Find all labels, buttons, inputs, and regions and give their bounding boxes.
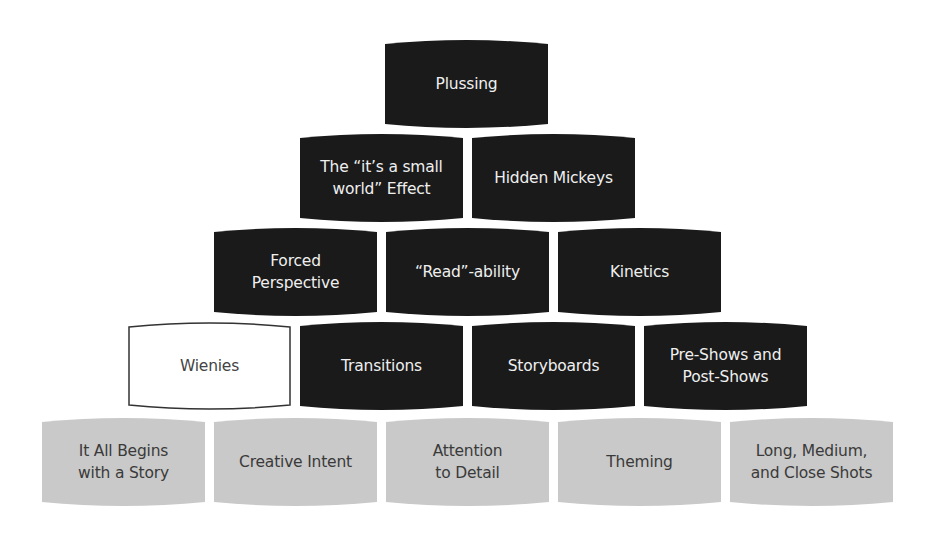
block-transitions: Transitions xyxy=(300,322,463,410)
block-wienies: Wienies xyxy=(128,322,291,410)
block-label: Wienies xyxy=(172,355,247,377)
block-label: “Read”-ability xyxy=(407,261,528,283)
block-label: Kinetics xyxy=(602,261,677,283)
block-label: The “it’s a small world” Effect xyxy=(312,156,450,200)
block-label: Long, Medium, and Close Shots xyxy=(743,440,881,484)
block-attention-to-detail: Attention to Detail xyxy=(386,418,549,506)
block-theming: Theming xyxy=(558,418,721,506)
block-pre-post-shows: Pre-Shows and Post-Shows xyxy=(644,322,807,410)
block-label: Creative Intent xyxy=(231,451,360,473)
block-creative-intent: Creative Intent xyxy=(214,418,377,506)
block-label: Storyboards xyxy=(500,355,608,377)
block-label: Pre-Shows and Post-Shows xyxy=(662,344,790,388)
block-plussing: Plussing xyxy=(385,40,548,128)
block-hidden-mickeys: Hidden Mickeys xyxy=(472,134,635,222)
pyramid-diagram: Plussing The “it’s a small world” Effect… xyxy=(0,0,941,535)
block-storyboards: Storyboards xyxy=(472,322,635,410)
block-label: Plussing xyxy=(428,73,506,95)
block-label: It All Begins with a Story xyxy=(70,440,177,484)
block-begins-with-story: It All Begins with a Story xyxy=(42,418,205,506)
block-label: Hidden Mickeys xyxy=(486,167,621,189)
block-kinetics: Kinetics xyxy=(558,228,721,316)
block-label: Theming xyxy=(598,451,681,473)
block-small-world-effect: The “it’s a small world” Effect xyxy=(300,134,463,222)
block-read-ability: “Read”-ability xyxy=(386,228,549,316)
block-long-medium-close-shots: Long, Medium, and Close Shots xyxy=(730,418,893,506)
block-label: Attention to Detail xyxy=(425,440,511,484)
block-label: Transitions xyxy=(333,355,430,377)
block-forced-perspective: Forced Perspective xyxy=(214,228,377,316)
block-label: Forced Perspective xyxy=(244,250,348,294)
